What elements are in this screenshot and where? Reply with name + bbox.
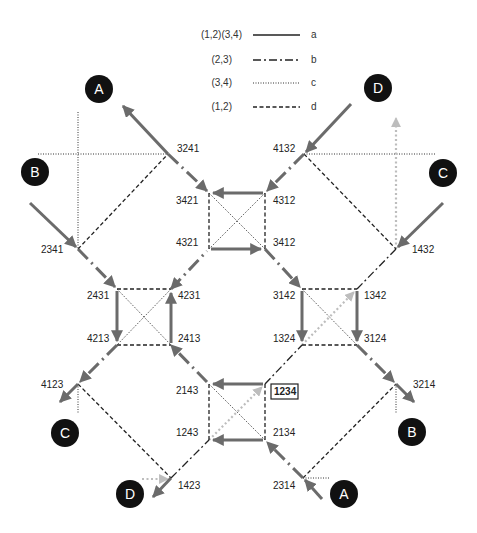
- svg-text:C: C: [438, 165, 448, 181]
- node-1234: 1234: [274, 386, 297, 397]
- node-4213: 4213: [87, 333, 110, 344]
- node-2314: 2314: [273, 480, 296, 491]
- node-3241: 3241: [177, 143, 200, 154]
- square-right: [302, 289, 357, 345]
- node-1423: 1423: [178, 480, 201, 491]
- outer-dashed-edges: [78, 154, 396, 478]
- permutation-diagram: (1,2)(3,4) a (2,3) b (3,4) c (1,2) d: [0, 0, 477, 533]
- svg-text:C: C: [60, 425, 70, 441]
- legend: (1,2)(3,4) a (2,3) b (3,4) c (1,2) d: [201, 29, 317, 112]
- node-2413: 2413: [178, 333, 201, 344]
- circle-bottom-d: D: [116, 480, 144, 508]
- node-4132: 4132: [273, 143, 296, 154]
- svg-text:A: A: [339, 486, 349, 502]
- circle-top-d: D: [364, 74, 392, 102]
- svg-text:B: B: [30, 164, 39, 180]
- node-4123: 4123: [41, 379, 64, 390]
- node-3412: 3412: [273, 237, 296, 248]
- node-4321: 4321: [176, 237, 199, 248]
- node-2341: 2341: [41, 244, 64, 255]
- legend-label-d: (1,2): [211, 101, 232, 112]
- legend-key-c: c: [311, 77, 316, 88]
- node-3214: 3214: [413, 379, 436, 390]
- square-top: [209, 193, 265, 249]
- circle-bottom-a: A: [330, 480, 358, 508]
- node-1324: 1324: [273, 333, 296, 344]
- node-3124: 3124: [364, 333, 387, 344]
- svg-text:B: B: [407, 424, 416, 440]
- node-3142: 3142: [273, 290, 296, 301]
- node-1342: 1342: [364, 290, 387, 301]
- node-4312: 4312: [273, 195, 296, 206]
- circle-top-a: A: [85, 75, 113, 103]
- circle-bottom-b: B: [398, 418, 426, 446]
- circle-right-c: C: [429, 159, 457, 187]
- svg-text:D: D: [125, 486, 135, 502]
- square-bottom: [209, 384, 265, 440]
- node-1243: 1243: [176, 427, 199, 438]
- legend-key-d: d: [311, 101, 317, 112]
- square-left: [117, 289, 171, 345]
- node-4231: 4231: [178, 290, 201, 301]
- thick-dashdot-edges: [78, 154, 394, 478]
- legend-key-b: b: [311, 54, 317, 65]
- svg-text:D: D: [373, 80, 383, 96]
- node-3421: 3421: [176, 195, 199, 206]
- svg-text:A: A: [94, 81, 104, 97]
- node-1432: 1432: [412, 244, 435, 255]
- circle-bottom-c: C: [51, 419, 79, 447]
- node-2143: 2143: [176, 385, 199, 396]
- legend-label-b: (2,3): [211, 54, 232, 65]
- circle-left-b: B: [21, 158, 49, 186]
- legend-key-a: a: [311, 29, 317, 40]
- thin-dashdot-edges: [171, 249, 396, 478]
- node-2431: 2431: [87, 290, 110, 301]
- node-2134: 2134: [273, 427, 296, 438]
- legend-label-c: (3,4): [211, 77, 232, 88]
- legend-label-a: (1,2)(3,4): [201, 29, 242, 40]
